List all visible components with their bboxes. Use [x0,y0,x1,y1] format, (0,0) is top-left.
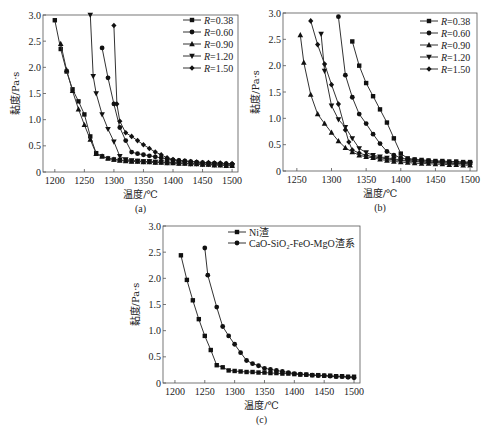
data-point [123,130,128,136]
x-tick-label: 1450 [425,174,445,185]
data-point [329,82,334,88]
data-point [399,151,403,155]
x-tick-label: 1250 [287,174,307,185]
data-point [53,18,57,22]
data-point [135,138,140,144]
y-tick-label: 3.0 [149,221,162,232]
data-point [298,32,304,37]
data-point [350,95,355,100]
panel-caption: (b) [374,202,386,214]
y-tick-label: 1.0 [149,325,162,336]
data-point [111,139,117,144]
data-point [250,361,255,366]
data-point [340,374,345,379]
x-tick-label: 1200 [165,386,185,397]
legend-marker [235,230,239,234]
data-point [209,348,213,352]
data-point [256,370,260,374]
data-point [153,154,158,159]
series-Ni渣 [179,253,357,379]
y-tick-label: 1.5 [29,88,42,99]
data-point [329,103,335,108]
data-point [346,375,351,380]
data-point [318,32,324,37]
data-point [364,81,368,85]
y-tick-label: 2.0 [149,273,162,284]
x-tick-label: 1200 [45,175,65,186]
legend-label: Ni渣 [249,226,269,238]
x-tick-label: 1500 [222,175,242,186]
y-tick-label: 0.5 [29,140,42,151]
x-tick-label: 1300 [225,386,245,397]
data-point [357,112,362,117]
data-point [147,153,152,158]
y-tick-label: 0.5 [149,351,162,362]
data-point [202,246,207,251]
data-point [179,253,183,257]
chart-panel-a: 00.51.01.52.02.53.0120012501300135014001… [9,10,242,216]
series-CaO-SiO₂-FeO-MgO渣系 [202,246,356,381]
x-tick-label: 1350 [254,386,274,397]
y-axis-label: 黏度/Pa·s [249,70,261,114]
legend-label: R=0.90 [440,40,470,51]
data-point [185,278,189,282]
data-point [244,358,249,363]
data-point [352,375,357,380]
data-point [268,367,273,372]
data-point [106,75,111,80]
legend-label: R=0.38 [203,15,233,26]
x-tick-label: 1250 [74,175,94,186]
y-tick-label: 2.5 [149,247,162,258]
data-point [385,120,389,124]
data-point [315,111,321,116]
data-point [292,371,297,376]
data-point [328,374,333,379]
y-tick-label: 1.5 [269,87,282,98]
data-point [298,372,303,377]
y-axis-label: 黏度/Pa·s [9,72,21,116]
data-point [274,368,279,373]
legend-label: R=1.50 [203,63,233,74]
data-point [100,46,105,51]
data-point [238,369,242,373]
data-point [205,273,210,278]
y-tick-label: 3.0 [269,8,282,19]
panel-caption: (c) [256,414,267,426]
y-tick-label: 1.0 [269,113,282,124]
data-point [220,365,224,369]
data-point [232,342,237,347]
legend-label: R=0.60 [440,28,470,39]
panel-caption: (a) [135,203,146,215]
y-axis-label: 黏度/Pa·s [129,283,141,327]
data-point [226,368,230,372]
legend-label: R=1.50 [440,64,470,75]
data-point [111,23,116,29]
data-point [135,151,140,156]
data-point [343,127,348,133]
data-point [371,94,375,98]
x-tick-label: 1300 [322,174,342,185]
data-point [238,350,243,355]
data-point [286,370,291,375]
x-tick-label: 1350 [133,175,153,186]
x-tick-label: 1500 [344,386,364,397]
legend-marker [426,66,431,72]
data-point [141,142,146,148]
data-point [392,136,396,140]
data-point [90,74,96,79]
y-tick-label: 0 [156,378,161,389]
data-point [232,369,236,373]
y-tick-label: 2.0 [29,62,42,73]
x-axis-label: 温度/℃ [244,399,279,411]
data-point [129,134,134,140]
data-point [346,139,351,145]
data-point [378,107,382,111]
data-point [334,374,339,379]
legend-marker [427,19,431,23]
data-point [147,146,152,152]
data-point [191,298,195,302]
y-tick-label: 0.5 [269,139,282,150]
x-tick-label: 1400 [284,386,304,397]
data-point [378,141,383,146]
data-point [357,63,361,67]
